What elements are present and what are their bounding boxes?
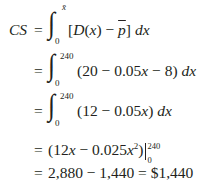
equation-line-4: = (12x − 0.025x2)2400	[0, 140, 198, 162]
integrand: [D(x) − p] dx	[68, 22, 150, 38]
integral-sign: ∫	[48, 90, 55, 120]
upper-limit: 240	[60, 92, 74, 101]
upper-limit: x̄	[62, 3, 66, 12]
upper-limit: 240	[60, 52, 74, 61]
equals-sign: =	[34, 142, 43, 158]
integral-sign: ∫	[48, 8, 55, 38]
integral-sign: ∫	[48, 50, 55, 80]
lower-limit: 0	[55, 119, 60, 128]
equals-sign: =	[34, 165, 43, 181]
eval-upper-limit: 240	[148, 142, 161, 151]
equation-line-3: = ∫ 240 0 (12 − 0.05x) dx	[0, 90, 198, 130]
equation-line-2: = ∫ 240 0 (20 − 0.05x − 8) dx	[0, 50, 198, 90]
lower-limit: 0	[55, 37, 60, 46]
exponent: 2	[134, 141, 139, 151]
equation-line-1: CS = ∫ x̄ 0 [D(x) − p] dx	[0, 0, 198, 50]
result: 2,880 − 1,440 = $1,440	[48, 165, 193, 181]
integrand: (12 − 0.05x) dx	[77, 103, 172, 119]
antiderivative: (12x − 0.025x2)2400	[48, 142, 156, 158]
equals-sign: =	[34, 103, 43, 119]
equation-line-5: = 2,880 − 1,440 = $1,440	[0, 162, 198, 184]
consumer-surplus-symbol: CS	[9, 22, 27, 38]
integrand: (20 − 0.05x − 8) dx	[77, 63, 196, 79]
equals-sign: =	[34, 22, 43, 38]
lower-limit: 0	[55, 79, 60, 88]
equals-sign: =	[34, 63, 43, 79]
